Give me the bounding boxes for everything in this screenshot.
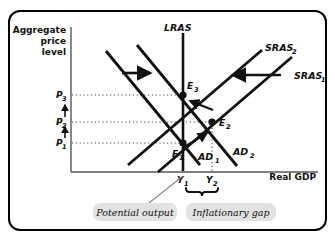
ad-as-diagram-figure: Aggregate price level Real GDP LRAS SRAS… (0, 0, 335, 241)
label-e3-sub: 3 (194, 86, 199, 94)
point-e1 (179, 139, 186, 146)
label-e2-sub: 2 (226, 123, 231, 131)
tick-p3-sub: 3 (62, 95, 67, 103)
label-e2-base: E (219, 118, 226, 128)
y-axis-label-line3: level (42, 47, 66, 57)
label-lras: LRAS (164, 22, 192, 33)
label-e3-base: E (187, 81, 194, 91)
label-ad1-base: AD (197, 151, 213, 162)
label-e1-base: E (172, 149, 179, 159)
tick-y2-sub: 2 (213, 180, 218, 188)
label-sras1-base: SRAS (294, 70, 323, 81)
y-axis-label-line2: price (41, 36, 66, 46)
callout-potential-output: Potential output (93, 203, 177, 221)
label-sras1-sub: 1 (321, 76, 326, 84)
point-e3 (179, 91, 186, 98)
callout-inflationary-gap: Inflationary gap (186, 203, 276, 221)
point-e2 (208, 118, 215, 125)
label-sras2-sub: 2 (292, 48, 297, 56)
tick-p2-sub: 2 (62, 122, 67, 130)
x-axis-label: Real GDP (269, 172, 316, 182)
label-e1-sub: 1 (179, 154, 184, 162)
callout-potential-output-text: Potential output (95, 207, 174, 218)
label-ad2-sub: 2 (250, 152, 255, 160)
label-ad2-base: AD (232, 146, 248, 157)
label-sras2-base: SRAS (265, 42, 294, 53)
callout-inflationary-gap-text: Inflationary gap (192, 207, 270, 218)
tick-p1-sub: 1 (62, 143, 67, 151)
y-axis-label-line1: Aggregate (13, 25, 66, 35)
label-ad1-sub: 1 (215, 157, 220, 165)
tick-y1-sub: 1 (184, 180, 189, 188)
